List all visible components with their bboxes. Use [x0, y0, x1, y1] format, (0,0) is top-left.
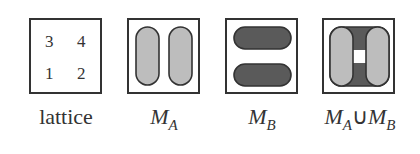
- mb-caption: MB: [212, 104, 312, 134]
- caption-ma-sub: A: [343, 117, 352, 133]
- lattice-caption: lattice: [16, 104, 116, 130]
- caption-sub: A: [169, 117, 178, 133]
- ma-panel: [127, 18, 200, 94]
- ma-caption: MA: [114, 104, 214, 134]
- caption-sub: B: [267, 117, 276, 133]
- union-shape: [324, 20, 397, 96]
- cell-1: 1: [45, 64, 54, 84]
- lattice-panel: 3 4 1 2: [29, 18, 102, 94]
- horizontal-bars-shape: [227, 20, 300, 96]
- cell-3: 3: [45, 32, 54, 52]
- union-caption: MA∪MB: [305, 104, 415, 134]
- cell-4: 4: [77, 32, 86, 52]
- union-panel: [322, 18, 395, 94]
- caption-mb: M: [368, 104, 386, 129]
- caption-mb-sub: B: [386, 117, 395, 133]
- vertical-bars-shape: [129, 20, 202, 96]
- caption-m: M: [150, 104, 168, 129]
- mb-panel: [225, 18, 298, 94]
- cell-2: 2: [77, 64, 86, 84]
- caption-m: M: [248, 104, 266, 129]
- union-symbol: ∪: [352, 104, 368, 129]
- caption-ma: M: [325, 104, 343, 129]
